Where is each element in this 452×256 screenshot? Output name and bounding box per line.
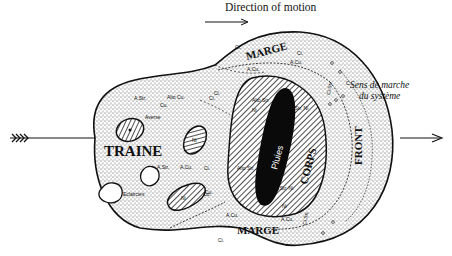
label-ni-2: Ni [181,195,186,201]
label-eclaircies: Eclaircies [123,191,145,197]
label-a-str-2: A.Str. [157,164,169,170]
traine-label: TRAINE [104,143,162,159]
label-marge-ci-3: Ci. [214,90,220,96]
label-averse: Averse [145,114,161,120]
label-marge-ci-1: Ci. [297,50,303,56]
sens-de-marche-label: Sens de marche du système [350,80,409,102]
label-bottom-a-cu: A.Cu. [226,212,239,218]
label-corps-ni-1: Ni [252,107,257,113]
label-a-str-ni-2: A.Str. Ni [275,185,293,191]
label-marge-a-cu-2: A.Cu. [290,59,303,65]
front-label: FRONT [352,126,364,165]
label-bottom-ci: Ci. [218,237,224,243]
label-ni-1: Ni [192,137,197,143]
sens-line-2: du système [350,91,409,102]
label-ci-2: Ci. [204,165,210,171]
label-marge-ci-2: Ci. [235,44,241,50]
direction-of-motion-title: Direction of motion [225,1,316,13]
label-cu-1: Cu. [160,102,168,108]
marge-bottom-label: MARGE [237,224,279,236]
cyclone-diagram: TRAINE MARGE MARGE FRONT CORPS Pluies A.… [0,0,452,256]
label-marge-a-cu-1: A.Cu. [247,66,260,72]
label-bottom-cu: Cu. [205,189,213,195]
label-bottom-a-cu-2: A.Cu. [281,216,294,222]
sens-line-1: Sens de marche [350,80,409,91]
label-alto-str-2: Alto Str. [237,165,255,171]
label-alto-str-1: Alto Str. [252,97,270,103]
label-alto-cu: Alto Cu. [167,94,185,100]
direction-arrow-icon [205,19,248,25]
label-a-cu-1: A.Cu. [180,164,193,170]
label-a-str-ni-1: A.Str. Ni [290,105,308,111]
label-a-str: A.Str. [134,95,146,101]
label-corps-ni-2: Ni [282,203,287,209]
